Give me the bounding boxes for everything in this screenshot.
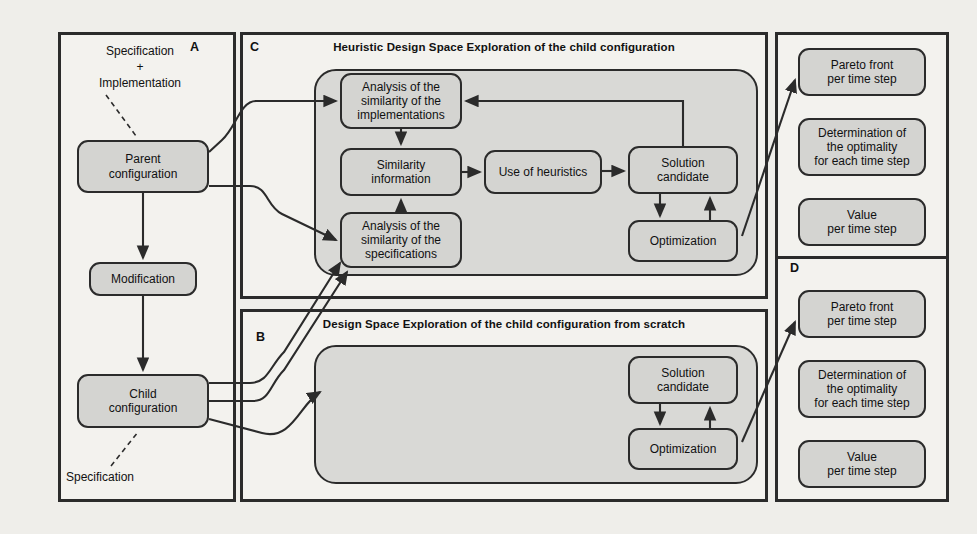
panel-c-title: Heuristic Design Space Exploration of th… <box>240 41 768 53</box>
node-determination-top-label-line3: for each time step <box>814 154 909 168</box>
node-determination-bottom-label-line2: the optimality <box>814 382 909 396</box>
node-value-top-label-line2: per time step <box>827 222 896 236</box>
node-determination-top-label-line1: Determination of <box>814 126 909 140</box>
node-parent-configuration-label-line2: configuration <box>109 167 178 181</box>
node-value-top[interactable]: Value per time step <box>798 198 926 246</box>
node-solution-candidate-c-label-line1: Solution <box>657 156 709 170</box>
node-optimization-c-label-line1: Optimization <box>650 234 717 248</box>
node-analysis-specifications-label-line1: Analysis of the <box>361 219 441 233</box>
node-optimization-b[interactable]: Optimization <box>628 428 738 470</box>
node-child-configuration-label-line2: configuration <box>109 401 178 415</box>
node-solution-candidate-b-label-line1: Solution <box>657 366 709 380</box>
node-similarity-information-label-line1: Similarity <box>371 158 430 172</box>
node-pareto-front-top[interactable]: Pareto front per time step <box>798 48 926 96</box>
node-modification-label-line1: Modification <box>111 272 175 286</box>
node-determination-top[interactable]: Determination of the optimality for each… <box>798 118 926 176</box>
node-determination-top-label-line2: the optimality <box>814 140 909 154</box>
node-analysis-specifications[interactable]: Analysis of the similarity of the specif… <box>340 212 462 268</box>
node-optimization-c[interactable]: Optimization <box>628 220 738 262</box>
node-pareto-front-top-label-line2: per time step <box>827 72 896 86</box>
node-analysis-specifications-label-line2: similarity of the <box>361 233 441 247</box>
node-child-configuration[interactable]: Child configuration <box>77 374 209 428</box>
node-pareto-front-bottom[interactable]: Pareto front per time step <box>798 290 926 338</box>
node-value-bottom-label-line1: Value <box>827 450 896 464</box>
panel-b-title: Design Space Exploration of the child co… <box>240 318 768 330</box>
node-use-of-heuristics-label-line1: Use of heuristics <box>499 165 588 179</box>
node-optimization-b-label-line1: Optimization <box>650 442 717 456</box>
panel-a-annotation-specification-implementation-line3: Implementation <box>70 76 210 90</box>
node-similarity-information[interactable]: Similarity information <box>340 148 462 196</box>
node-use-of-heuristics[interactable]: Use of heuristics <box>484 150 602 194</box>
panel-b-letter: B <box>256 330 265 344</box>
node-solution-candidate-b[interactable]: Solution candidate <box>628 356 738 404</box>
node-child-configuration-label-line1: Child <box>109 387 178 401</box>
node-solution-candidate-c[interactable]: Solution candidate <box>628 146 738 194</box>
node-pareto-front-top-label-line1: Pareto front <box>827 58 896 72</box>
node-similarity-information-label-line2: information <box>371 172 430 186</box>
node-analysis-implementations-label-line3: implementations <box>357 108 444 122</box>
node-solution-candidate-c-label-line2: candidate <box>657 170 709 184</box>
panel-a-annotation-specification-implementation-line2: + <box>70 60 210 74</box>
node-pareto-front-bottom-label-line2: per time step <box>827 314 896 328</box>
node-determination-bottom-label-line1: Determination of <box>814 368 909 382</box>
node-parent-configuration[interactable]: Parent configuration <box>77 140 209 193</box>
panel-d-letter: D <box>790 261 799 275</box>
node-modification[interactable]: Modification <box>89 262 197 296</box>
node-analysis-implementations[interactable]: Analysis of the similarity of the implem… <box>340 73 462 129</box>
panel-a-annotation-specification-bottom: Specification <box>66 470 206 484</box>
node-solution-candidate-b-label-line2: candidate <box>657 380 709 394</box>
node-value-bottom[interactable]: Value per time step <box>798 440 926 488</box>
diagram-canvas: A Specification + Implementation Parent … <box>0 0 977 534</box>
node-analysis-implementations-label-line2: similarity of the <box>357 94 444 108</box>
node-determination-bottom-label-line3: for each time step <box>814 396 909 410</box>
panel-a-annotation-specification-implementation-line1: Specification <box>70 44 210 58</box>
node-pareto-front-bottom-label-line1: Pareto front <box>827 300 896 314</box>
node-value-bottom-label-line2: per time step <box>827 464 896 478</box>
node-parent-configuration-label-line1: Parent <box>109 152 178 166</box>
node-analysis-implementations-label-line1: Analysis of the <box>357 80 444 94</box>
node-determination-bottom[interactable]: Determination of the optimality for each… <box>798 360 926 418</box>
node-analysis-specifications-label-line3: specifications <box>361 247 441 261</box>
node-value-top-label-line1: Value <box>827 208 896 222</box>
